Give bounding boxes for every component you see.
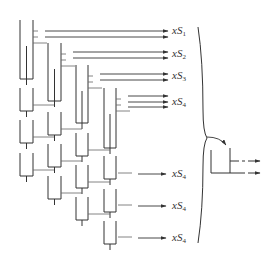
output-label-xs4-d: xS4 — [172, 232, 186, 245]
tall-unit-col3 — [76, 65, 88, 129]
tall-unit-col4 — [104, 88, 116, 154]
small-unit-col3-2 — [76, 165, 88, 194]
result-unit — [211, 148, 260, 173]
output-label-xs4-c: xS4 — [172, 200, 186, 213]
output-label-xs4-a: xS4 — [172, 96, 186, 109]
stacking-diagram — [0, 0, 275, 266]
output-label-xs2: xS2 — [172, 48, 186, 61]
output-arrows — [45, 31, 168, 238]
tall-unit-col2 — [48, 43, 61, 107]
output-label-xs4-b: xS4 — [172, 168, 186, 181]
small-unit-col4-1 — [104, 156, 116, 185]
small-unit-col1-1 — [20, 88, 33, 117]
small-unit-col2-3 — [48, 176, 61, 205]
tall-unit-col1 — [20, 20, 33, 85]
tray-units — [20, 20, 116, 250]
curved-arrow — [207, 137, 226, 145]
output-label-xs3: xS3 — [172, 70, 186, 83]
small-unit-col4-3 — [104, 221, 116, 250]
small-unit-col3-1 — [76, 133, 88, 162]
small-unit-col3-3 — [76, 197, 88, 226]
small-unit-col1-3 — [20, 153, 33, 182]
grouping-brace — [198, 27, 207, 243]
small-unit-col1-2 — [20, 120, 33, 149]
output-label-xs1: xS1 — [172, 25, 186, 38]
small-unit-col2-2 — [48, 144, 61, 173]
